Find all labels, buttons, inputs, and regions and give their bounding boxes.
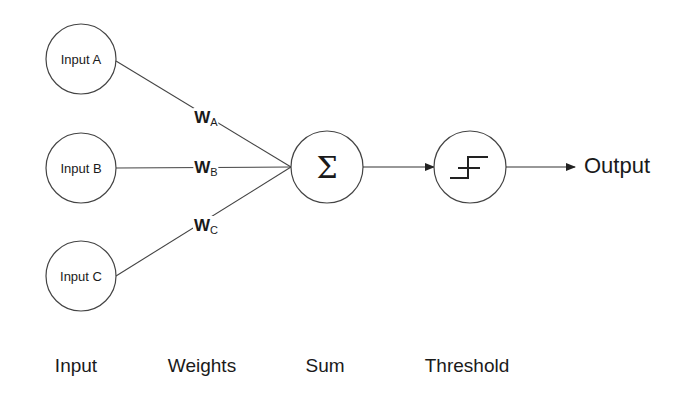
output-label: Output (584, 153, 650, 179)
caption-weights: Weights (168, 355, 236, 377)
caption-threshold: Threshold (425, 355, 510, 377)
input-c-label: Input C (41, 269, 121, 284)
caption-sum: Sum (305, 355, 344, 377)
weight-c: WC (193, 216, 219, 236)
caption-input: Input (55, 355, 97, 377)
weight-a: WA (193, 108, 218, 128)
weight-b: WB (193, 158, 218, 178)
input-a-label: Input A (41, 52, 121, 67)
sigma-icon: Σ (316, 150, 337, 185)
input-b-label: Input B (41, 161, 121, 176)
